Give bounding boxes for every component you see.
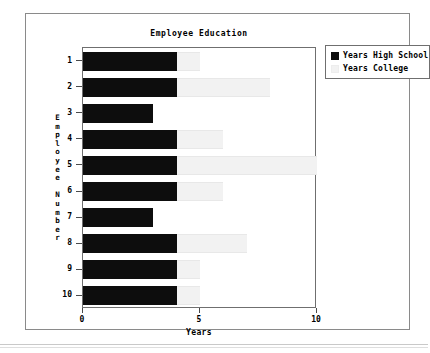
legend-item: Years College <box>331 63 425 74</box>
bar-segment-college <box>177 156 317 175</box>
y-tick-mark <box>76 295 82 296</box>
x-tick-label: 0 <box>70 315 94 324</box>
bar-segment-high-school <box>83 104 153 123</box>
legend-item: Years High School <box>331 50 425 61</box>
legend-swatch-high-school <box>331 52 339 60</box>
x-tick-mark <box>316 308 317 313</box>
bar-row <box>83 130 317 149</box>
y-tick-label: 10 <box>50 290 72 299</box>
y-tick-mark <box>76 60 82 61</box>
y-tick-mark <box>76 191 82 192</box>
y-tick-mark <box>76 164 82 165</box>
y-tick-label: 1 <box>50 56 72 65</box>
x-tick-mark <box>199 308 200 313</box>
bar-segment-high-school <box>83 78 177 97</box>
bar-segment-high-school <box>83 286 177 305</box>
bar-row <box>83 52 317 71</box>
y-tick-mark <box>76 243 82 244</box>
bar-row <box>83 182 317 201</box>
page-divider-line <box>0 344 428 345</box>
y-tick-label: 9 <box>50 264 72 273</box>
bar-segment-college <box>177 78 271 97</box>
bar-row <box>83 78 317 97</box>
bar-segment-college <box>177 182 224 201</box>
chart-legend: Years High SchoolYears College <box>325 45 430 79</box>
legend-swatch-college <box>331 65 339 73</box>
bar-segment-high-school <box>83 182 177 201</box>
y-tick-label: 4 <box>50 134 72 143</box>
y-tick-mark <box>76 112 82 113</box>
bar-segment-high-school <box>83 234 177 253</box>
bar-row <box>83 208 317 227</box>
bar-row <box>83 234 317 253</box>
bar-segment-high-school <box>83 130 177 149</box>
x-axis-title: Years <box>82 328 316 337</box>
bar-segment-high-school <box>83 260 177 279</box>
bar-segment-college <box>177 286 200 305</box>
bar-row <box>83 260 317 279</box>
y-tick-label: 5 <box>50 160 72 169</box>
x-tick-label: 10 <box>304 315 328 324</box>
y-tick-label: 3 <box>50 108 72 117</box>
y-tick-mark <box>76 86 82 87</box>
bar-segment-college <box>177 52 200 71</box>
y-tick-label: 8 <box>50 238 72 247</box>
y-tick-mark <box>76 269 82 270</box>
bars-container <box>83 48 315 307</box>
bar-segment-high-school <box>83 208 153 227</box>
bar-segment-high-school <box>83 156 177 175</box>
bar-row <box>83 104 317 123</box>
y-tick-label: 2 <box>50 82 72 91</box>
legend-label: Years College <box>343 64 408 73</box>
bar-row <box>83 286 317 305</box>
y-tick-label: 7 <box>50 212 72 221</box>
document-frame: Employee Education Employee Number Years… <box>25 13 410 330</box>
x-tick-label: 5 <box>187 315 211 324</box>
y-tick-mark <box>76 138 82 139</box>
plot-area <box>82 47 316 308</box>
bar-segment-college <box>177 234 247 253</box>
x-tick-mark <box>82 308 83 313</box>
bar-row <box>83 156 317 175</box>
y-tick-mark <box>76 217 82 218</box>
chart-title: Employee Education <box>82 29 316 38</box>
bar-segment-high-school <box>83 52 177 71</box>
page-divider-line-secondary <box>0 347 428 348</box>
legend-label: Years High School <box>343 51 428 60</box>
y-tick-label: 6 <box>50 186 72 195</box>
bar-segment-college <box>177 260 200 279</box>
bar-segment-college <box>177 130 224 149</box>
